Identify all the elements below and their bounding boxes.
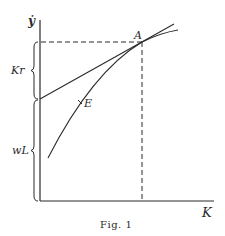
figure-diagram: ẏ K A E Kr wL Fig. 1 bbox=[0, 0, 225, 236]
x-axis-label: K bbox=[201, 205, 213, 220]
kr-label: Kr bbox=[10, 64, 25, 77]
point-e-label: E bbox=[83, 97, 92, 110]
figure-caption: Fig. 1 bbox=[100, 219, 132, 230]
tangent-line bbox=[40, 24, 174, 99]
wl-brace bbox=[31, 100, 38, 201]
wl-label: wL bbox=[12, 144, 29, 157]
production-curve bbox=[48, 30, 178, 158]
y-axis-label: ẏ bbox=[27, 14, 36, 28]
point-a-label: A bbox=[133, 29, 142, 42]
kr-brace bbox=[31, 42, 38, 99]
